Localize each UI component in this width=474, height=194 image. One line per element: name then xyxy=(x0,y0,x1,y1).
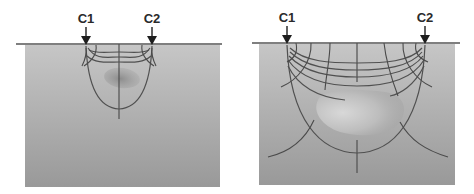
electrode-c1: C1 xyxy=(78,11,95,45)
electrode-c1: C1 xyxy=(279,10,296,44)
panel-narrow-spacing: C1 C2 xyxy=(16,11,222,187)
electrode-label: C2 xyxy=(417,10,434,25)
electrode-label: C2 xyxy=(144,11,161,26)
electrode-current-diagram: C1 C2 xyxy=(0,0,474,194)
electrode-label: C1 xyxy=(78,11,95,26)
panel-wide-spacing: C1 C2 xyxy=(252,10,460,185)
electrode-label: C1 xyxy=(279,10,296,25)
electrode-c2: C2 xyxy=(417,10,434,44)
electrode-c2: C2 xyxy=(144,11,161,45)
ground-block xyxy=(25,45,220,187)
